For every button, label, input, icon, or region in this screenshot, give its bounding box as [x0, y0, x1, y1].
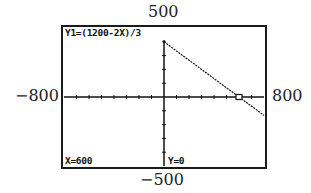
y-readout: Y=0 [168, 156, 184, 166]
calculator-screen [61, 25, 267, 169]
ymin-label: −500 [140, 172, 184, 188]
xmin-label: −800 [15, 88, 59, 104]
trace-cursor [236, 95, 242, 100]
ymax-label: 500 [148, 4, 179, 20]
xmax-label: 800 [272, 88, 303, 104]
function-label: Y1=(1200-2X)/3 [65, 28, 141, 38]
x-readout: X=600 [65, 156, 92, 166]
